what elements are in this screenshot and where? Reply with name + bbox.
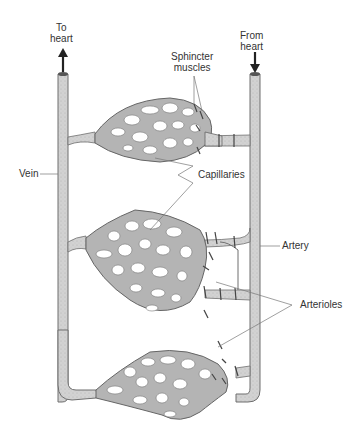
vein-label: Vein xyxy=(19,168,38,179)
capillary-bed-middle xyxy=(86,210,236,318)
down-arrow-icon xyxy=(250,52,260,73)
to-heart-label: To heart xyxy=(50,22,73,44)
up-arrow-icon xyxy=(58,48,68,72)
capillary-bed-top xyxy=(95,98,234,162)
sphincter-muscles-label: Sphincter muscles xyxy=(171,51,213,73)
capillary-bed-bottom xyxy=(96,341,238,419)
circulation-diagram: To heart From heart Sphincter muscles Ve… xyxy=(0,0,360,439)
from-heart-label: From heart xyxy=(240,30,263,52)
artery-label: Artery xyxy=(282,240,309,251)
arterioles-label: Arterioles xyxy=(300,299,342,310)
capillaries-label: Capillaries xyxy=(198,169,245,180)
